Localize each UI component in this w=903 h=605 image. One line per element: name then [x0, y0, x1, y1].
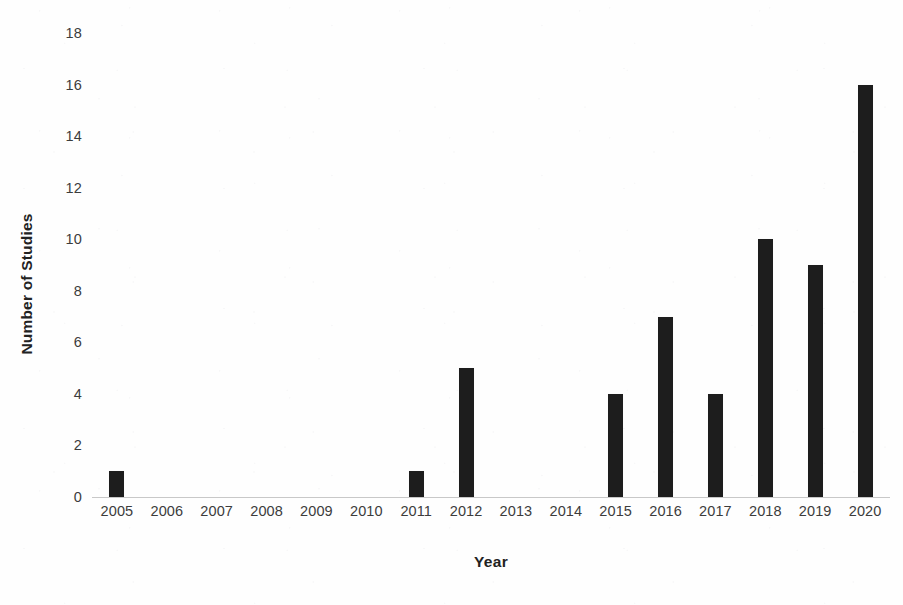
- bar-2015[interactable]: [608, 394, 623, 497]
- y-axis-tick-labels: 024681012141618: [52, 33, 82, 497]
- y-axis-tick-4: 4: [74, 386, 82, 402]
- bar-2016[interactable]: [658, 317, 673, 497]
- y-axis-tick-18: 18: [65, 25, 82, 41]
- x-axis-tick-2005: 2005: [92, 503, 142, 527]
- bar-slot-2014: [541, 33, 591, 497]
- bar-slot-2018: [740, 33, 790, 497]
- bar-series: [92, 33, 890, 497]
- x-axis-tick-labels: 2005200620072008200920102011201220132014…: [92, 503, 890, 527]
- x-axis-tick-2017: 2017: [691, 503, 741, 527]
- y-axis-tick-8: 8: [74, 283, 82, 299]
- x-axis-tick-2012: 2012: [441, 503, 491, 527]
- x-axis-tick-2008: 2008: [242, 503, 292, 527]
- x-axis-tick-2007: 2007: [192, 503, 242, 527]
- bar-slot-2009: [292, 33, 342, 497]
- bar-slot-2006: [142, 33, 192, 497]
- bar-slot-2010: [341, 33, 391, 497]
- bar-slot-2011: [391, 33, 441, 497]
- y-axis-tick-2: 2: [74, 437, 82, 453]
- y-axis-tick-0: 0: [74, 489, 82, 505]
- y-axis-tick-16: 16: [65, 77, 82, 93]
- bar-2018[interactable]: [758, 239, 773, 497]
- bar-2011[interactable]: [409, 471, 424, 497]
- x-axis-title: Year: [92, 553, 890, 571]
- bar-2005[interactable]: [109, 471, 124, 497]
- bar-slot-2019: [790, 33, 840, 497]
- x-axis-tick-2006: 2006: [142, 503, 192, 527]
- bar-slot-2017: [691, 33, 741, 497]
- y-axis-title-label: Number of Studies: [18, 213, 36, 354]
- x-axis-tick-2015: 2015: [591, 503, 641, 527]
- x-axis-tick-2016: 2016: [641, 503, 691, 527]
- y-axis-tick-6: 6: [74, 334, 82, 350]
- bar-slot-2016: [641, 33, 691, 497]
- bar-2019[interactable]: [808, 265, 823, 497]
- x-axis-tick-2013: 2013: [491, 503, 541, 527]
- bar-2020[interactable]: [858, 85, 873, 497]
- x-axis-tick-2009: 2009: [292, 503, 342, 527]
- x-axis-tick-2014: 2014: [541, 503, 591, 527]
- bar-slot-2015: [591, 33, 641, 497]
- x-axis-tick-2019: 2019: [790, 503, 840, 527]
- x-axis-tick-2018: 2018: [740, 503, 790, 527]
- bar-slot-2007: [192, 33, 242, 497]
- x-axis-tick-2010: 2010: [341, 503, 391, 527]
- y-axis-tick-12: 12: [65, 180, 82, 196]
- bar-slot-2013: [491, 33, 541, 497]
- y-axis-title: Number of Studies: [10, 0, 44, 605]
- bar-slot-2012: [441, 33, 491, 497]
- plot-area: [92, 33, 890, 497]
- y-axis-tick-14: 14: [65, 128, 82, 144]
- x-axis-tick-2020: 2020: [840, 503, 890, 527]
- bar-chart-figure: Number of Studies 024681012141618 200520…: [0, 0, 903, 605]
- x-axis-line: [92, 497, 890, 498]
- y-axis-tick-10: 10: [65, 231, 82, 247]
- bar-slot-2005: [92, 33, 142, 497]
- bar-2017[interactable]: [708, 394, 723, 497]
- x-axis-tick-2011: 2011: [391, 503, 441, 527]
- bar-2012[interactable]: [459, 368, 474, 497]
- bar-slot-2020: [840, 33, 890, 497]
- bar-slot-2008: [242, 33, 292, 497]
